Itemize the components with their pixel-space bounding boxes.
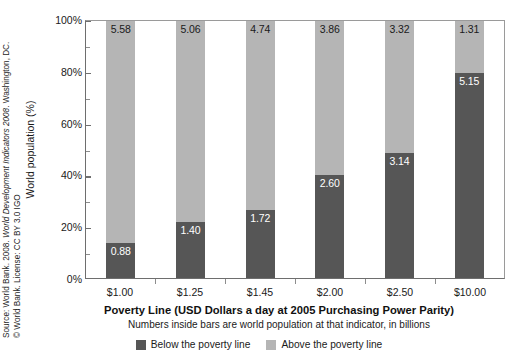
y-tick-label-100: 100% [42, 14, 82, 26]
bar-value-label-above: 3.32 [385, 23, 414, 35]
x-axis-note: Numbers inside bars are world population… [40, 319, 518, 330]
bar-group: 3.862.60 [295, 21, 365, 278]
x-tick-mark [225, 279, 295, 285]
stacked-bar[interactable]: 4.741.72 [246, 21, 275, 278]
y-axis-title-label: World population (%) [24, 20, 36, 279]
x-axis-title: Poverty Line (USD Dollars a day at 2005 … [40, 304, 518, 316]
x-tick-label-3: $1.45 [225, 286, 295, 298]
stacked-bar[interactable]: 5.580.88 [106, 21, 135, 278]
bar-segment-above-poverty-line[interactable]: 1.31 [455, 21, 484, 73]
source-attribution: Source: World Bank. 2008. World Developm… [0, 0, 22, 340]
bar-value-label-above: 1.31 [455, 23, 484, 35]
bar-segment-above-poverty-line[interactable]: 3.32 [385, 21, 414, 153]
source-publication-title: World Development Indicators 2008 [2, 108, 11, 238]
source-prefix: Source: World Bank. 2008. [2, 238, 11, 338]
legend-item-1[interactable]: Below the poverty line [136, 339, 251, 350]
bar-segment-below-poverty-line[interactable]: 5.15 [455, 73, 484, 278]
bar-segment-below-poverty-line[interactable]: 2.60 [315, 175, 344, 278]
bar-group: 3.323.14 [365, 21, 435, 278]
bar-segment-above-poverty-line[interactable]: 3.86 [315, 21, 344, 175]
x-tick-mark [155, 279, 225, 285]
y-tick-label-40: 40% [42, 169, 82, 181]
x-tick-mark [365, 279, 435, 285]
y-axis-title: World population (%) [24, 20, 40, 279]
chart-plot-area: 5.580.885.061.404.741.723.862.603.323.14… [85, 20, 505, 279]
bar-segment-below-poverty-line[interactable]: 1.40 [176, 222, 205, 278]
bar-value-label-below: 3.14 [385, 155, 414, 167]
y-tick-label-80: 80% [42, 66, 82, 78]
bar-value-label-above: 4.74 [246, 23, 275, 35]
bar-series-container: 5.580.885.061.404.741.723.862.603.323.14… [86, 21, 504, 278]
y-tick-label-20: 20% [42, 221, 82, 233]
x-tick-label-1: $1.00 [85, 286, 155, 298]
bar-value-label-below: 0.88 [106, 245, 135, 257]
bar-segment-below-poverty-line[interactable]: 0.88 [106, 243, 135, 278]
bar-value-label-below: 5.15 [455, 75, 484, 87]
bar-group: 1.315.15 [434, 21, 504, 278]
legend-swatch-icon [266, 340, 276, 350]
x-tick-mark [295, 279, 365, 285]
bar-value-label-above: 5.06 [176, 23, 205, 35]
bar-group: 4.741.72 [225, 21, 295, 278]
legend-label: Above the poverty line [281, 339, 382, 350]
bar-value-label-below: 1.72 [246, 212, 275, 224]
stacked-bar[interactable]: 1.315.15 [455, 21, 484, 278]
legend-swatch-icon [136, 340, 146, 350]
y-tick-label-60: 60% [42, 118, 82, 130]
bar-segment-above-poverty-line[interactable]: 5.06 [176, 21, 205, 222]
x-axis-tick-labels: $1.00$1.25$1.45$2.00$2.50$10.00 [85, 286, 505, 298]
stacked-bar[interactable]: 3.323.14 [385, 21, 414, 278]
x-tick-label-6: $10.00 [435, 286, 505, 298]
bar-segment-above-poverty-line[interactable]: 5.58 [106, 21, 135, 243]
bar-value-label-above: 3.86 [315, 23, 344, 35]
x-tick-label-4: $2.00 [295, 286, 365, 298]
bar-segment-below-poverty-line[interactable]: 1.72 [246, 210, 275, 278]
source-suffix: . Washington, DC. [2, 42, 11, 108]
y-axis-tick-labels: 100% 80% 60% 40% 20% 0% [40, 20, 82, 279]
bar-value-label-above: 5.58 [106, 23, 135, 35]
stacked-bar[interactable]: 5.061.40 [176, 21, 205, 278]
y-tick-label-0: 0% [42, 273, 82, 285]
legend-label: Below the poverty line [151, 339, 251, 350]
x-tick-label-5: $2.50 [365, 286, 435, 298]
x-axis-tick-marks [85, 279, 505, 285]
x-tick-mark [85, 279, 155, 285]
x-tick-label-2: $1.25 [155, 286, 225, 298]
stacked-bar[interactable]: 3.862.60 [315, 21, 344, 278]
source-license-line: © World Bank. License: CC BY 3.0 IGO [13, 194, 23, 338]
bar-segment-above-poverty-line[interactable]: 4.74 [246, 21, 275, 210]
bar-value-label-below: 2.60 [315, 177, 344, 189]
source-attribution-line-1: Source: World Bank. 2008. World Developm… [2, 42, 12, 338]
x-tick-mark [435, 279, 505, 285]
chart-legend: Below the poverty lineAbove the poverty … [0, 339, 518, 350]
bar-segment-below-poverty-line[interactable]: 3.14 [385, 153, 414, 278]
bar-value-label-below: 1.40 [176, 224, 205, 236]
legend-item-2[interactable]: Above the poverty line [266, 339, 382, 350]
bar-group: 5.580.88 [86, 21, 156, 278]
bar-group: 5.061.40 [156, 21, 226, 278]
